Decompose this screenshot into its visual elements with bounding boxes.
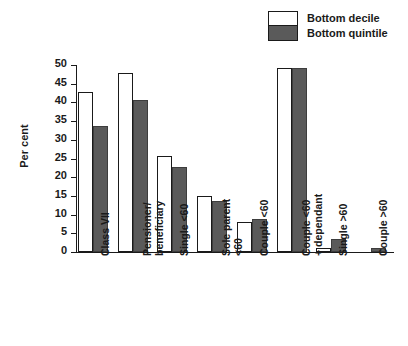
y-axis-line [76, 65, 77, 253]
bar-chart-figure: Bottom decile Bottom quintile Per cent 0… [0, 0, 408, 346]
y-tick-35: 35 [71, 121, 76, 122]
legend-label-stack: Bottom decile Bottom quintile [307, 11, 388, 41]
y-tick-0: 0 [71, 252, 76, 253]
y-tick-label-40: 40 [55, 94, 67, 106]
y-tick-40: 40 [71, 102, 76, 103]
legend-label-bottom-decile: Bottom decile [307, 11, 388, 26]
x-axis-label-0: Class VII [100, 212, 112, 256]
y-tick-label-35: 35 [55, 113, 67, 125]
x-axis-label-7: Couple >60 [378, 200, 390, 256]
y-tick-15: 15 [71, 196, 76, 197]
y-tick-label-25: 25 [55, 151, 67, 163]
y-tick-label-0: 0 [61, 244, 67, 256]
y-tick-10: 10 [71, 215, 76, 216]
y-tick-label-45: 45 [55, 76, 67, 88]
legend-swatch-bottom-decile [269, 12, 297, 26]
y-tick-label-20: 20 [55, 169, 67, 181]
y-tick-20: 20 [71, 177, 76, 178]
x-axis-label-2: Single <60 [179, 204, 191, 256]
y-tick-5: 5 [71, 233, 76, 234]
plot-area: 05101520253035404550 Class VIIPensioner/… [76, 65, 394, 252]
x-axis-label-3: Sole parent <60 [221, 199, 244, 256]
y-tick-label-5: 5 [61, 225, 67, 237]
legend-label-bottom-quintile: Bottom quintile [307, 26, 388, 41]
legend-swatch-stack [268, 11, 298, 41]
bar-decile-3 [197, 196, 212, 252]
x-axis-label-6: Single >60 [338, 204, 350, 256]
y-tick-45: 45 [71, 84, 76, 85]
y-tick-label-15: 15 [55, 188, 67, 200]
y-tick-50: 50 [71, 65, 76, 66]
chart-legend: Bottom decile Bottom quintile [268, 11, 388, 41]
x-axis-label-4: Couple <60 [259, 200, 271, 256]
bar-decile-5 [277, 68, 292, 252]
y-tick-25: 25 [71, 159, 76, 160]
y-axis-title: Per cent [18, 116, 30, 176]
bar-decile-0 [78, 92, 93, 252]
y-tick-30: 30 [71, 140, 76, 141]
x-axis-label-5: Couple <60 + dependant [301, 194, 324, 256]
bar-decile-1 [118, 73, 133, 252]
y-tick-label-10: 10 [55, 207, 67, 219]
y-tick-label-50: 50 [55, 57, 67, 69]
legend-swatch-bottom-quintile [269, 26, 297, 40]
x-axis-label-1: Pensioner/ beneficiary [142, 201, 165, 256]
y-tick-label-30: 30 [55, 132, 67, 144]
